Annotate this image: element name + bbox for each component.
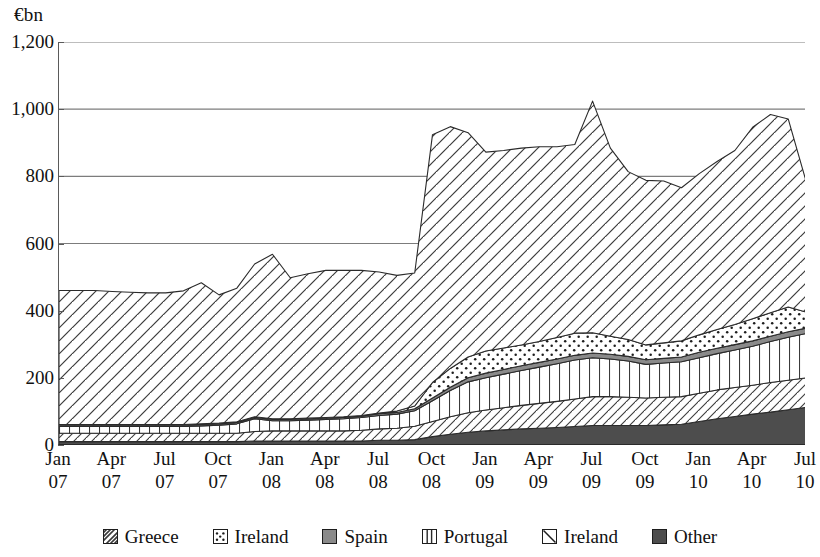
x-axis-tick-year: 08 <box>348 470 408 493</box>
legend-swatch-vertical-lines-icon <box>422 529 437 544</box>
x-axis-tick-year: 08 <box>402 470 462 493</box>
x-axis-tick-year: 09 <box>615 470 675 493</box>
x-axis-tick-year: 10 <box>722 470 782 493</box>
legend-label: Greece <box>125 527 179 546</box>
x-axis-tick-year: 08 <box>241 470 301 493</box>
legend-label: Ireland <box>564 527 618 546</box>
area-series-group <box>59 101 805 445</box>
y-axis-tick-mark <box>58 244 64 245</box>
x-axis-tick-year: 07 <box>28 470 88 493</box>
legend-label: Spain <box>344 527 387 546</box>
x-axis-tick-label: Jan10 <box>668 447 728 493</box>
x-axis-tick-month: Apr <box>722 447 782 470</box>
x-axis-tick-year: 09 <box>508 470 568 493</box>
legend-swatch-backslash-icon <box>542 529 557 544</box>
x-axis-tick-label: Jul08 <box>348 447 408 493</box>
x-axis-tick-year: 09 <box>562 470 622 493</box>
x-axis-labels: Jan07Apr07Jul07Oct07Jan08Apr08Jul08Oct08… <box>0 447 820 509</box>
x-axis-tick-year: 10 <box>775 470 820 493</box>
x-axis-tick-month: Jul <box>562 447 622 470</box>
legend-swatch-solid-dark-icon <box>652 529 667 544</box>
legend-label: Other <box>674 527 717 546</box>
x-axis-tick-year: 10 <box>668 470 728 493</box>
legend-label: Ireland <box>235 527 289 546</box>
x-axis-tick-month: Jul <box>348 447 408 470</box>
x-axis-tick-year: 08 <box>295 470 355 493</box>
y-axis-tick-mark <box>58 42 64 43</box>
x-axis-tick-month: Jan <box>668 447 728 470</box>
x-axis-tick-month: Oct <box>402 447 462 470</box>
legend-swatch-dotted-icon <box>213 529 228 544</box>
x-axis-tick-month: Oct <box>615 447 675 470</box>
x-axis-tick-year: 07 <box>81 470 141 493</box>
chart-container: €bn 1,2001,0008006004002000 <box>0 0 820 557</box>
x-axis-tick-label: Apr09 <box>508 447 568 493</box>
x-axis-tick-year: 07 <box>188 470 248 493</box>
x-axis-tick-year: 09 <box>455 470 515 493</box>
x-axis-tick-year: 07 <box>135 470 195 493</box>
x-axis-tick-label: Apr10 <box>722 447 782 493</box>
x-axis-tick-month: Apr <box>81 447 141 470</box>
legend-swatch-dense-diagonal-icon <box>103 529 118 544</box>
x-axis-tick-label: Jan07 <box>28 447 88 493</box>
stacked-area-plot <box>59 42 805 445</box>
x-axis-tick-month: Jan <box>28 447 88 470</box>
x-axis-tick-label: Jul07 <box>135 447 195 493</box>
legend-swatch-solid-gray-icon <box>322 529 337 544</box>
x-axis-tick-month: Jul <box>135 447 195 470</box>
y-axis-tick-mark <box>58 109 64 110</box>
legend-item-ireland[interactable]: Ireland <box>213 527 289 546</box>
y-axis-tick-label: 200 <box>2 368 54 387</box>
x-axis-tick-label: Oct09 <box>615 447 675 493</box>
y-axis-labels: 1,2001,0008006004002000 <box>0 0 54 480</box>
y-axis-tick-mark <box>58 378 64 379</box>
legend-item-ireland-2[interactable]: Ireland <box>542 527 618 546</box>
y-axis-tick-label: 1,000 <box>2 99 54 118</box>
x-axis-tick-label: Jan09 <box>455 447 515 493</box>
chart-legend: GreeceIrelandSpainPortugalIrelandOther <box>0 516 820 557</box>
x-axis-tick-label: Jul10 <box>775 447 820 493</box>
x-axis-tick-label: Apr07 <box>81 447 141 493</box>
y-axis-tick-label: 800 <box>2 166 54 185</box>
legend-label: Portugal <box>444 527 508 546</box>
y-axis-tick-label: 400 <box>2 301 54 320</box>
legend-item-spain[interactable]: Spain <box>322 527 387 546</box>
x-axis-tick-month: Apr <box>295 447 355 470</box>
x-axis-tick-month: Jan <box>241 447 301 470</box>
x-axis-tick-month: Oct <box>188 447 248 470</box>
x-axis-tick-label: Jan08 <box>241 447 301 493</box>
x-axis-tick-month: Jul <box>775 447 820 470</box>
y-axis-tick-mark <box>58 176 64 177</box>
x-axis-tick-label: Oct08 <box>402 447 462 493</box>
legend-item-other[interactable]: Other <box>652 527 717 546</box>
x-axis-tick-label: Jul09 <box>562 447 622 493</box>
x-axis-tick-month: Jan <box>455 447 515 470</box>
y-axis-tick-mark <box>58 311 64 312</box>
y-axis-tick-label: 600 <box>2 234 54 253</box>
plot-area <box>58 42 805 445</box>
legend-item-portugal[interactable]: Portugal <box>422 527 508 546</box>
x-axis-tick-label: Apr08 <box>295 447 355 493</box>
y-axis-tick-label: 1,200 <box>2 32 54 51</box>
x-axis-tick-month: Apr <box>508 447 568 470</box>
legend-item-greece[interactable]: Greece <box>103 527 179 546</box>
y-axis-tick-mark <box>58 445 64 446</box>
x-axis-tick-label: Oct07 <box>188 447 248 493</box>
